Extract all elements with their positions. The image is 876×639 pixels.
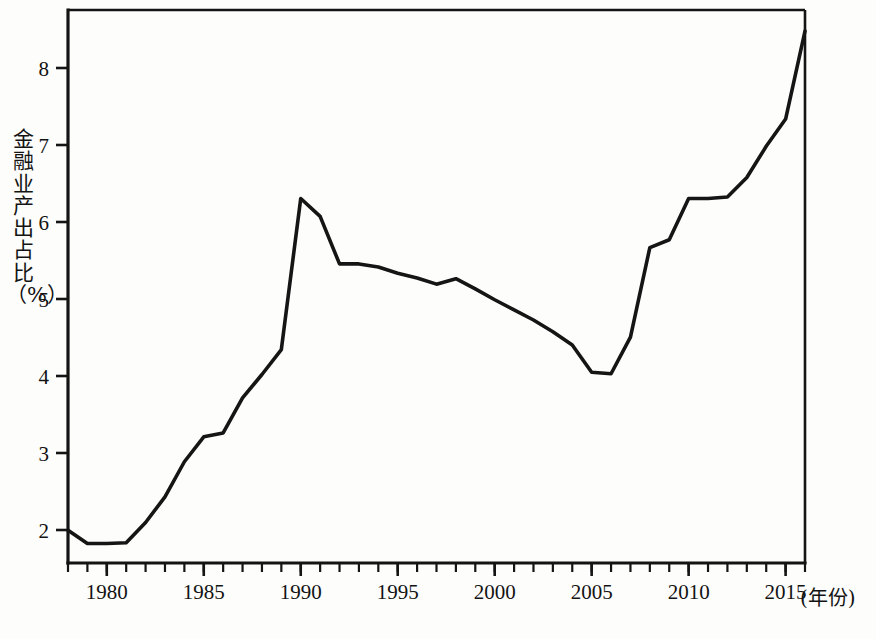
x-axis-major-ticks — [107, 563, 786, 576]
y-axis-tick-labels: 2 3 4 5 6 7 8 — [39, 57, 50, 543]
y-tick-label: 6 — [39, 211, 50, 235]
y-tick-label: 4 — [39, 365, 50, 389]
y-tick-label: 5 — [39, 288, 50, 312]
x-tick-label: 1980 — [86, 580, 128, 604]
x-axis-tick-labels: 19801985199019952000200520102015 — [86, 580, 807, 604]
x-tick-label: 1995 — [377, 580, 419, 604]
chart-figure: 金融业产出占比（%） (年份) 2 3 4 5 6 7 8 — [0, 0, 876, 639]
y-tick-label: 8 — [39, 57, 50, 81]
x-tick-label: 1990 — [280, 580, 322, 604]
y-axis-ticks — [56, 68, 68, 530]
y-tick-label: 3 — [39, 442, 50, 466]
x-tick-label: 2015 — [765, 580, 807, 604]
x-tick-label: 2000 — [474, 580, 516, 604]
line-chart: 2 3 4 5 6 7 8 19801985199019952000200520… — [0, 0, 876, 639]
x-tick-label: 2010 — [668, 580, 710, 604]
y-tick-label: 2 — [39, 519, 50, 543]
x-tick-label: 1985 — [183, 580, 225, 604]
data-series-line — [68, 31, 805, 544]
plot-frame — [68, 10, 805, 563]
x-tick-label: 2005 — [571, 580, 613, 604]
y-tick-label: 7 — [39, 134, 50, 158]
